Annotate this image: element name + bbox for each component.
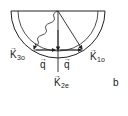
k1o-vector	[58, 11, 82, 49]
k3o-wavy-vector	[34, 11, 58, 47]
label-q-left: q →	[40, 55, 47, 70]
svg-text:2e: 2e	[61, 82, 69, 89]
label-q-right: q →	[64, 55, 71, 70]
svg-text:→: →	[40, 55, 47, 62]
svg-text:3o: 3o	[17, 54, 25, 61]
svg-text:→: →	[10, 44, 17, 51]
ewald-sphere-diagram: K 3o → q → q → K 2e → K 1o → b	[0, 0, 128, 116]
label-k2e: K 2e →	[54, 72, 69, 89]
svg-text:1o: 1o	[97, 56, 105, 63]
panel-label: b	[113, 77, 119, 88]
svg-text:→: →	[54, 72, 61, 79]
label-k3o: K 3o →	[10, 44, 25, 61]
svg-text:→: →	[90, 46, 97, 53]
label-k1o: K 1o →	[90, 46, 105, 63]
svg-text:→: →	[64, 55, 71, 62]
